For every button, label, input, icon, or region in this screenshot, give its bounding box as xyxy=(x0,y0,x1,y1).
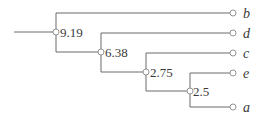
leaf-circle-e xyxy=(230,70,236,76)
leaf-circle-c xyxy=(230,50,236,56)
node-circle-n3 xyxy=(143,69,149,75)
leaf-circle-b xyxy=(230,10,236,16)
node-label-n2: 6.38 xyxy=(105,45,128,60)
leaf-circle-d xyxy=(230,30,236,36)
leaf-circle-a xyxy=(230,104,236,110)
leaf-label-b: b xyxy=(243,6,250,21)
node-label-n1: 9.19 xyxy=(60,25,83,40)
leaf-label-d: d xyxy=(243,26,251,41)
node-circle-n2 xyxy=(98,49,104,55)
node-label-n4: 2.5 xyxy=(193,84,209,99)
leaf-label-e: e xyxy=(243,66,249,81)
node-label-n3: 2.75 xyxy=(150,65,173,80)
dendrogram: 9.19 6.38 2.75 2.5 b d c e a xyxy=(0,0,264,115)
leaf-label-a: a xyxy=(243,100,250,115)
node-circle-n1 xyxy=(53,29,59,35)
leaf-label-c: c xyxy=(243,46,250,61)
